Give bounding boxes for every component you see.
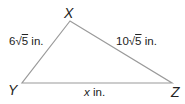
side-xz-coefficient: 10	[116, 35, 129, 47]
vertex-label-z: Z	[171, 85, 180, 99]
side-label-yz: x in.	[84, 87, 105, 99]
side-label-xy: 6√5 in.	[9, 36, 43, 48]
side-yz-unit: in.	[90, 86, 105, 98]
triangle-xyz	[22, 21, 172, 83]
side-xz-unit: in.	[142, 35, 157, 47]
vertex-label-y: Y	[8, 83, 17, 97]
vertex-label-x: X	[64, 6, 73, 20]
side-xy-unit: in.	[28, 35, 43, 47]
side-label-xz: 10√5 in.	[116, 36, 157, 48]
